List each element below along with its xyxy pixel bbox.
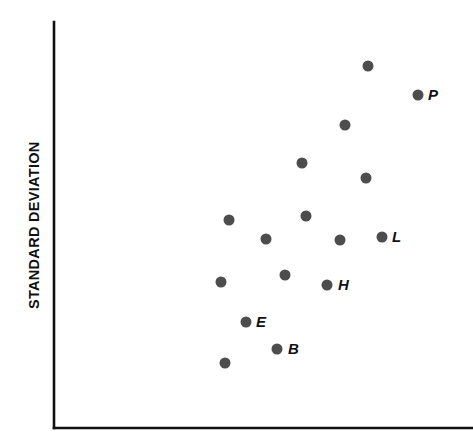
data-point	[297, 158, 308, 169]
data-point-label: B	[288, 340, 299, 357]
data-point	[413, 90, 424, 101]
data-point	[377, 232, 388, 243]
data-point	[280, 270, 291, 281]
data-point	[224, 215, 235, 226]
data-point-label: E	[256, 313, 267, 330]
data-point	[301, 211, 312, 222]
data-points-group: PLHEB	[216, 61, 440, 369]
data-point	[340, 120, 351, 131]
data-point	[261, 234, 272, 245]
plot-canvas: PLHEB	[0, 0, 473, 442]
data-point	[241, 317, 252, 328]
data-point	[335, 235, 346, 246]
y-axis-title: STANDARD DEVIATION	[26, 141, 42, 309]
scatter-plot-figure: PLHEB STANDARD DEVIATION	[0, 0, 473, 442]
data-point	[361, 173, 372, 184]
data-point-label: H	[338, 276, 350, 293]
axes-group	[54, 22, 473, 428]
data-point	[216, 277, 227, 288]
data-point	[272, 344, 283, 355]
data-point	[322, 280, 333, 291]
data-point-label: L	[392, 228, 401, 245]
data-point	[220, 358, 231, 369]
data-point-label: P	[428, 86, 439, 103]
data-point	[363, 61, 374, 72]
